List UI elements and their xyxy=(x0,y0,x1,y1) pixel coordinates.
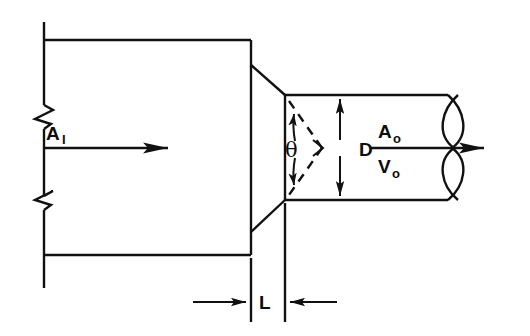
cone-angle-label: θ xyxy=(285,138,298,162)
taper-lower-wall xyxy=(251,200,285,232)
outlet-velocity-label: V xyxy=(378,156,391,177)
outlet-diameter-label: D xyxy=(359,139,373,160)
figure-canvas: A I θ D A o V o L xyxy=(0,0,530,336)
inlet-duct-outline xyxy=(35,22,251,288)
nozzle-taper xyxy=(251,65,285,232)
theta-arc-arrow-up xyxy=(293,114,295,141)
inlet-area-label: A xyxy=(46,123,60,144)
nozzle-length-label: L xyxy=(259,292,271,313)
outlet-area-label: A xyxy=(378,121,392,142)
nozzle-diagram: A I θ D A o V o L xyxy=(0,0,530,336)
outlet-area-subscript: o xyxy=(393,131,401,146)
taper-upper-wall xyxy=(251,65,285,95)
diagram-labels: A I θ D A o V o L xyxy=(46,121,401,313)
outlet-velocity-subscript: o xyxy=(392,166,400,181)
inlet-area-subscript: I xyxy=(62,132,66,147)
theta-arc-arrow-down xyxy=(293,158,295,185)
